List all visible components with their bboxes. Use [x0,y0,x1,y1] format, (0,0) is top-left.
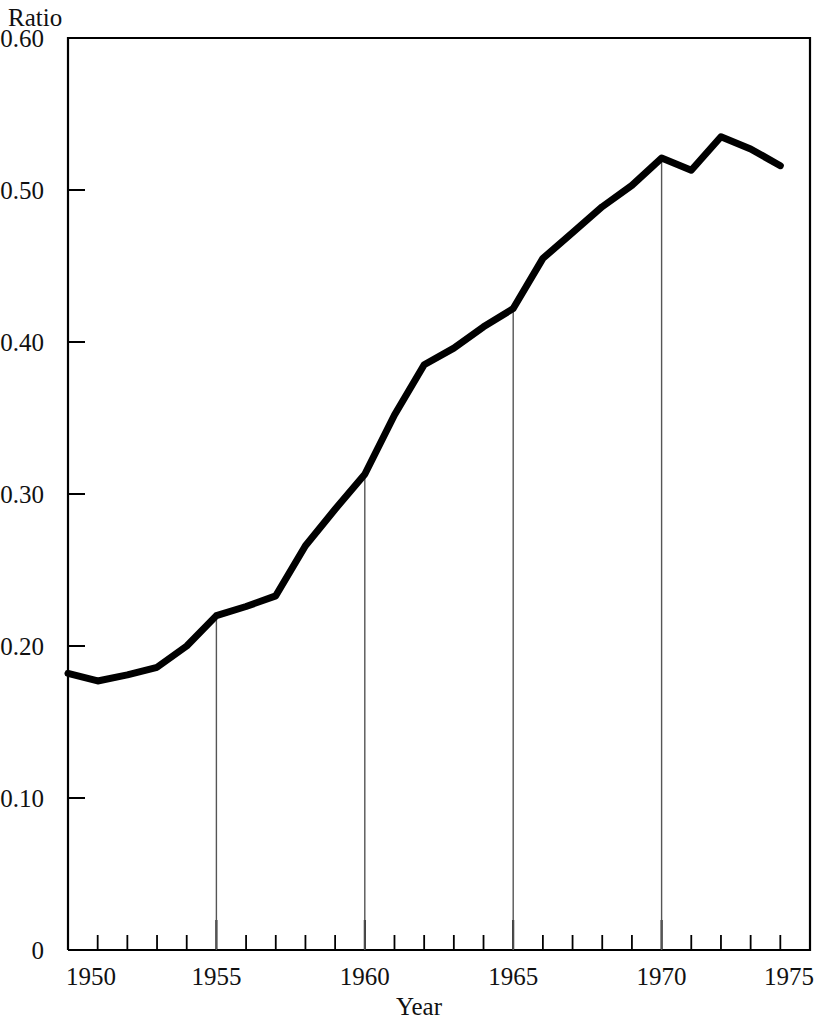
y-tick-label: 0.40 [0,329,44,356]
x-tick-label: 1950 [66,963,116,990]
y-tick-label: 0.30 [0,481,44,508]
chart-background [0,0,839,1025]
y-tick-label: 0.20 [0,633,44,660]
x-tick-label: 1960 [340,963,390,990]
x-tick-label: 1975 [764,963,814,990]
ratio-vs-year-line-chart: Ratio Year 00.100.200.300.400.500.60 195… [0,0,839,1025]
x-tick-label: 1955 [191,963,241,990]
y-tick-label: 0.50 [0,177,44,204]
x-tick-label: 1970 [637,963,687,990]
chart-container: Ratio Year 00.100.200.300.400.500.60 195… [0,0,839,1025]
y-tick-label: 0.60 [0,25,44,52]
x-axis-title: Year [396,993,443,1020]
x-tick-label: 1965 [488,963,538,990]
y-tick-label: 0 [32,937,45,964]
y-tick-label: 0.10 [0,785,44,812]
